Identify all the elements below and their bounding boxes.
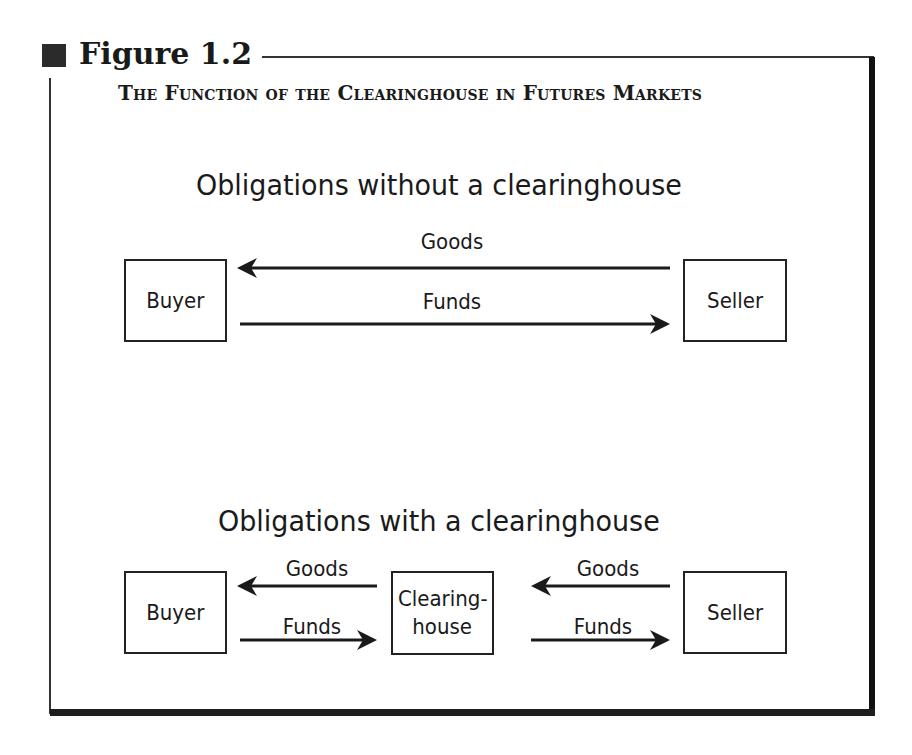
seller-label: Seller — [707, 599, 763, 626]
clearinghouse-node: Clearing- house — [391, 571, 494, 655]
buyer-label: Buyer — [146, 599, 204, 626]
flow-label-funds-left: Funds — [267, 614, 357, 640]
frame-bottom-shadow-border — [50, 709, 875, 716]
buyer-node: Buyer — [124, 259, 227, 342]
figure-title: The Function of the Clearinghouse in Fut… — [118, 80, 702, 106]
arrow-left-icon — [237, 258, 670, 278]
clearinghouse-label-line2: house — [413, 613, 473, 641]
section-heading-without: Obligations without a clearinghouse — [196, 168, 682, 202]
header-rule — [262, 56, 874, 58]
flow-label-goods-left: Goods — [268, 556, 367, 582]
frame-left-border — [49, 78, 51, 714]
seller-label: Seller — [707, 287, 763, 314]
flow-label-funds-right: Funds — [554, 614, 653, 640]
frame-right-shadow-border — [869, 57, 875, 716]
flow-label-funds: Funds — [412, 289, 493, 315]
figure-label: Figure 1.2 — [79, 36, 252, 72]
seller-node: Seller — [683, 259, 787, 342]
seller-node-with-clearinghouse: Seller — [683, 571, 787, 654]
buyer-label: Buyer — [146, 287, 204, 314]
flow-label-goods: Goods — [412, 229, 493, 255]
section-heading-with: Obligations with a clearinghouse — [218, 504, 660, 538]
flow-label-goods-right: Goods — [559, 556, 658, 582]
buyer-node-with-clearinghouse: Buyer — [124, 571, 227, 654]
arrow-right-icon — [240, 314, 670, 334]
figure-marker-icon — [42, 44, 66, 67]
clearinghouse-label-line1: Clearing- — [398, 585, 488, 613]
